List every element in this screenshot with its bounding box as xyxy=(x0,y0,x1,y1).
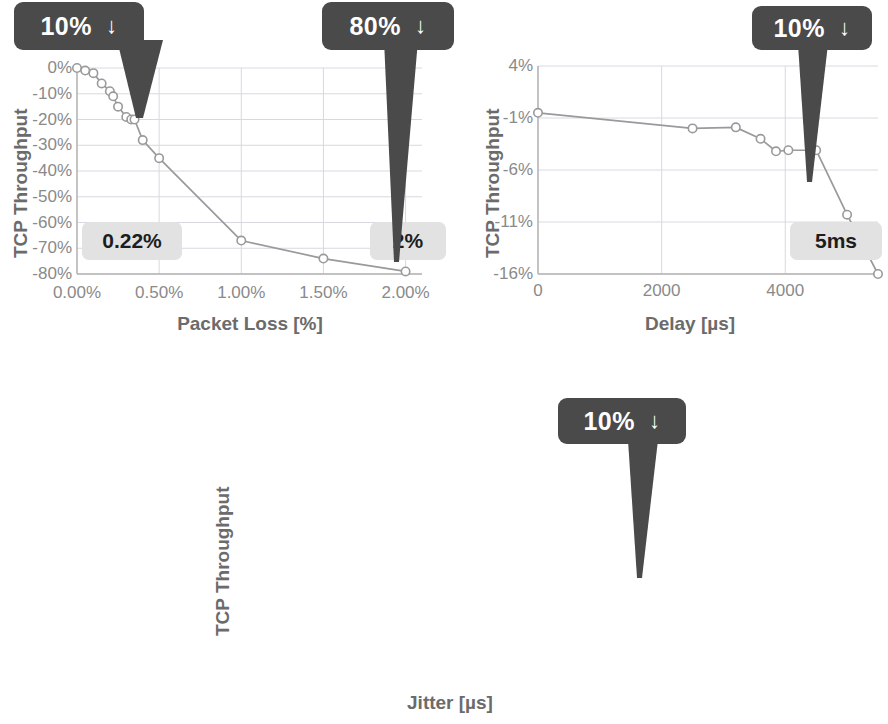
down-arrow-icon: ↓ xyxy=(649,410,661,432)
callout-box-packet-loss-80: 80% ↓ xyxy=(322,2,454,50)
chart-panel-jitter: TCP Throughput Jitter [µs] 1%-1%-3%-5%-7… xyxy=(200,374,700,724)
callout-needle-icon xyxy=(375,40,425,265)
callout-needle-icon xyxy=(110,40,170,120)
value-badge-packet-loss-left: 0.22% xyxy=(82,222,182,260)
down-arrow-icon: ↓ xyxy=(415,15,427,37)
callout-label: 10% xyxy=(583,407,635,436)
chart-panel-packet-loss: TCP Throughput Packet Loss [%] 0%-10%-20… xyxy=(0,0,460,350)
callout-box-packet-loss-10: 10% ↓ xyxy=(14,2,144,50)
callout-needle-icon xyxy=(788,44,836,184)
callout-box-jitter-10: 10% ↓ xyxy=(558,398,686,444)
chart-panel-delay: TCP Throughput Delay [µs] 4%-1%-6%-11%-1… xyxy=(460,0,888,350)
callout-label: 10% xyxy=(40,12,92,41)
callout-label: 80% xyxy=(349,12,401,41)
value-badge-delay: 5ms xyxy=(790,222,882,260)
down-arrow-icon: ↓ xyxy=(106,15,118,37)
callout-needle-icon xyxy=(618,440,666,580)
down-arrow-icon: ↓ xyxy=(839,17,851,39)
callout-label: 10% xyxy=(773,14,825,43)
callout-box-delay-10: 10% ↓ xyxy=(752,6,872,50)
